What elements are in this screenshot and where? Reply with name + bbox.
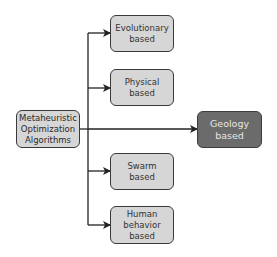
node-evolutionary-based: Evolutionary based: [110, 15, 174, 52]
node-swarm-based: Swarm based: [110, 153, 174, 190]
node-human-behavior-based: Human behavior based: [110, 206, 174, 244]
node-physical-based: Physical based: [110, 69, 174, 106]
node-geology-based: Geology based: [197, 111, 262, 148]
node-metaheuristic-optimization-algorithms: Metaheuristic Optimization Algorithms: [16, 110, 80, 148]
